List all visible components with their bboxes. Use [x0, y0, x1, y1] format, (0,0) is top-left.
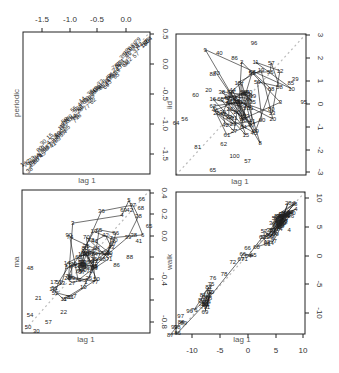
point-label: 64 — [144, 35, 153, 44]
point-label: 68 — [138, 205, 145, 211]
point-label: 71 — [241, 256, 248, 262]
point-label: 20 — [205, 87, 212, 93]
point-label: 58 — [276, 84, 283, 90]
point-label: 4 — [120, 212, 124, 218]
x-tick-label: -1.5 — [35, 15, 49, 24]
y-tick-label: 0.0 — [161, 58, 170, 70]
point-label: 38 — [130, 232, 137, 238]
point-label: 62 — [220, 141, 227, 147]
point-label: 8 — [258, 140, 262, 146]
point-label: 72 — [86, 268, 93, 274]
point-label: 55 — [279, 215, 286, 221]
y-tick-label: -5 — [315, 280, 324, 288]
point-label: 65 — [209, 167, 216, 173]
point-label: 22 — [60, 309, 67, 315]
point-label: 19 — [258, 67, 265, 73]
y-tick-label: 1 — [316, 79, 325, 84]
point-label: 15 — [242, 132, 249, 138]
x-tick-label: -1.0 — [63, 15, 77, 24]
point-label: 97 — [177, 313, 184, 319]
point-label: 4 — [287, 227, 291, 233]
point-label: 73 — [75, 277, 82, 283]
point-label: 10 — [288, 86, 295, 92]
y-tick-label: -10 — [315, 307, 324, 319]
y-tick-label: 0 — [315, 254, 324, 259]
y-tick-label: -1.5 — [161, 147, 170, 161]
point-label: 63 — [236, 99, 243, 105]
x-tick-label: -0.5 — [90, 15, 104, 24]
y-tick-label: -0.5 — [161, 87, 170, 101]
y-tick-label: -2 — [316, 146, 325, 154]
point-label: 18 — [291, 201, 298, 207]
point-label: 87 — [167, 332, 174, 338]
y-tick-label: -3 — [316, 168, 325, 176]
point-label: 38 — [135, 213, 142, 219]
point-label: 53 — [277, 223, 284, 229]
point-label: 6 — [141, 232, 145, 238]
point-label: 12 — [277, 68, 284, 74]
point-label: 96 — [186, 308, 193, 314]
periodic-points: 1387512498623609734718458219569330674417… — [19, 35, 154, 175]
point-label: 42 — [102, 232, 109, 238]
point-label: 84 — [267, 240, 274, 246]
point-label: 41 — [135, 238, 142, 244]
panel-iid: 1234567891011121314151617181920212223242… — [165, 33, 325, 186]
lag-plot-figure: 1387512498623609734718458219569330674417… — [0, 0, 339, 373]
point-label: 63 — [259, 234, 266, 240]
point-label: 86 — [231, 55, 238, 61]
point-label: 54 — [227, 89, 234, 95]
y-tick-label: 0.0 — [160, 230, 169, 242]
y-tick-label: 3 — [316, 33, 325, 38]
point-label: 11 — [252, 59, 259, 65]
point-label: 81 — [200, 292, 207, 298]
panel-periodic: 1387512498623609734718458219569330674417… — [12, 15, 170, 185]
point-label: 90 — [65, 232, 72, 238]
point-label: 32 — [225, 114, 232, 120]
y-tick-label: 5 — [315, 225, 324, 230]
point-label: 85 — [202, 301, 209, 307]
point-label: 100 — [229, 153, 240, 159]
point-label: 81 — [194, 144, 201, 150]
point-label: 61 — [224, 132, 231, 138]
y-tick-label: 2 — [316, 56, 325, 61]
point-label: 67 — [109, 241, 116, 247]
point-label: 51 — [51, 285, 58, 291]
point-label: 50 — [25, 324, 32, 330]
point-label: 53 — [243, 113, 250, 119]
point-label: 48 — [27, 265, 34, 271]
y-axis-label: iid — [165, 101, 174, 109]
point-label: 56 — [181, 116, 188, 122]
x-tick-label: -5 — [216, 346, 224, 355]
point-label: 57 — [268, 60, 275, 66]
point-label: 56 — [267, 69, 274, 75]
x-tick-label: 0.0 — [120, 15, 132, 24]
point-label: 43 — [219, 111, 226, 117]
point-label: 62 — [210, 103, 217, 109]
point-label: 79 — [70, 261, 77, 267]
point-label: 80 — [81, 245, 88, 251]
point-label: 66 — [113, 230, 120, 236]
point-label: 41 — [249, 118, 256, 124]
panel-ma: 1234567891011121314151617181920212223242… — [12, 187, 169, 344]
y-tick-label: -1.0 — [161, 117, 170, 131]
y-tick-label: -0.4 — [160, 272, 169, 286]
x-tick-label: 0 — [246, 346, 251, 355]
point-label: 60 — [259, 117, 266, 123]
point-label: 60 — [192, 92, 199, 98]
point-label: 17 — [50, 279, 57, 285]
point-label: 66 — [243, 89, 250, 95]
y-axis-label: periodic — [12, 89, 21, 117]
point-label: 7 — [73, 293, 77, 299]
point-label: 42 — [222, 122, 229, 128]
point-label: 57 — [45, 319, 52, 325]
y-tick-label: -0.8 — [160, 315, 169, 329]
y-tick-label: 10 — [315, 194, 324, 203]
x-tick-label: 10 — [299, 346, 308, 355]
point-label: 88 — [209, 71, 216, 77]
point-label: 80 — [268, 106, 275, 112]
point-label: 65 — [217, 96, 224, 102]
point-label: 85 — [287, 80, 294, 86]
point-label: 28 — [285, 200, 292, 206]
y-tick-label: 0 — [316, 102, 325, 107]
y-tick-label: 0.4 — [160, 187, 169, 199]
